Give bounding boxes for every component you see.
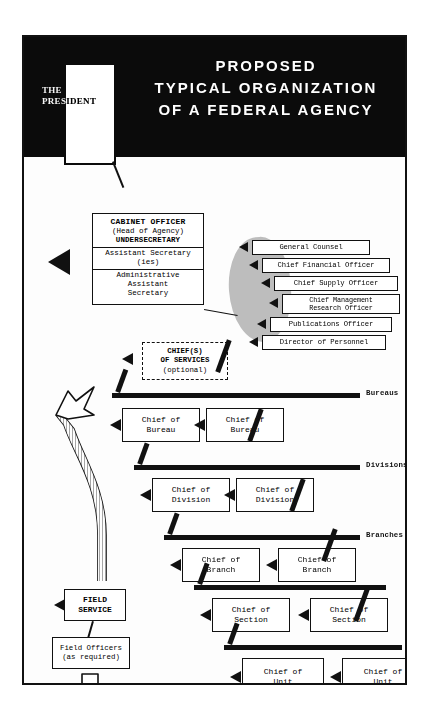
field-service-feedback-arrow-icon bbox=[54, 385, 134, 585]
staff-box-publications-officer: Publications Officer bbox=[270, 317, 392, 332]
staff-label-1: Chief Financial Officer bbox=[278, 261, 375, 270]
unit-box-2: Chief of Unit bbox=[342, 658, 407, 685]
optional-line-1: CHIEF(S) bbox=[167, 347, 202, 356]
staff-arrow-icon-0 bbox=[239, 242, 248, 252]
assistant-secretary-row: Assistant Secretary (ies) bbox=[93, 247, 203, 269]
field-officers-line-2: (as required) bbox=[62, 653, 120, 662]
division-1-line-1: Chief of bbox=[172, 485, 210, 495]
connector-president-cabinet bbox=[112, 161, 124, 188]
staff-arrow-icon-4 bbox=[257, 319, 266, 329]
branch-level-diagonal bbox=[167, 513, 179, 535]
optional-line-3: (optional) bbox=[163, 366, 207, 375]
unit-box-1: Chief of Unit bbox=[242, 658, 324, 685]
title-line-2: TYPICAL ORGANIZATION bbox=[141, 77, 391, 99]
org-chart-canvas: PROPOSED TYPICAL ORGANIZATION OF A FEDER… bbox=[22, 35, 407, 685]
division-2-line-1: Chief of bbox=[256, 485, 294, 495]
staff-label-3b: Research Officer bbox=[309, 304, 373, 312]
cabinet-arrow-icon bbox=[48, 249, 70, 275]
president-label-line-1: THE bbox=[42, 85, 62, 95]
unit-1-line-1: Chief of bbox=[264, 667, 302, 677]
division-arrow-icon-1 bbox=[140, 489, 151, 501]
branch-box-1: Chief of Branch bbox=[182, 548, 260, 582]
level-label-branches: Branches bbox=[366, 531, 403, 539]
field-officers-line-1: Field Officers bbox=[60, 644, 122, 653]
field-service-line-1: FIELD bbox=[83, 595, 107, 605]
level-label-divisions: Divisions bbox=[366, 461, 407, 469]
staff-label-0: General Counsel bbox=[279, 243, 342, 252]
bureau-1-line-2: Bureau bbox=[147, 425, 176, 435]
cabinet-undersecretary: UNDERSECRETARY bbox=[93, 236, 203, 245]
title-line-3: OF A FEDERAL AGENCY bbox=[141, 99, 391, 121]
field-service-box: FIELD SERVICE bbox=[64, 589, 126, 621]
staff-box-director-of-personnel: Director of Personnel bbox=[262, 335, 386, 350]
branch-2-line-1: Chief of bbox=[298, 555, 336, 565]
president-box bbox=[66, 65, 114, 163]
section-box-1: Chief of Section bbox=[212, 598, 290, 632]
division-1-line-2: Division bbox=[172, 495, 210, 505]
staff-box-general-counsel: General Counsel bbox=[252, 240, 370, 255]
unit-2-line-2: Unit bbox=[373, 677, 392, 685]
field-service-line-2: SERVICE bbox=[78, 605, 112, 615]
bureau-1-line-1: Chief of bbox=[142, 415, 180, 425]
division-arrow-icon-2 bbox=[224, 489, 235, 501]
cabinet-officer-box: CABINET OFFICER (Head of Agency) UNDERSE… bbox=[92, 213, 204, 305]
staff-box-chief-supply-officer: Chief Supply Officer bbox=[274, 276, 398, 291]
president-label: THE PRESIDENT bbox=[42, 85, 118, 108]
admin-line-3: Secretary bbox=[93, 289, 203, 298]
branch-box-2: Chief of Branch bbox=[278, 548, 356, 582]
staff-box-chief-financial-officer: Chief Financial Officer bbox=[262, 258, 390, 273]
level-label-bureaus: Bureaus bbox=[366, 389, 398, 397]
admin-line-1: Administrative bbox=[93, 271, 203, 280]
division-2-line-2: Division bbox=[256, 495, 294, 505]
unit-arrow-icon-1 bbox=[230, 671, 241, 683]
optional-arrow-icon bbox=[122, 353, 133, 365]
section-box-2: Chief of Section bbox=[310, 598, 388, 632]
administrative-assistant-row: Administrative Assistant Secretary bbox=[93, 269, 203, 300]
section-arrow-icon-2 bbox=[298, 609, 309, 621]
bureau-box-2: Chief of Bureau bbox=[206, 408, 284, 442]
staff-label-3a: Chief Management bbox=[309, 296, 373, 304]
branch-1-line-2: Branch bbox=[207, 565, 236, 575]
cabinet-title: CABINET OFFICER bbox=[93, 217, 203, 227]
unit-1-line-2: Unit bbox=[273, 677, 292, 685]
admin-line-2: Assistant bbox=[93, 280, 203, 289]
section-level-rule bbox=[194, 585, 386, 590]
staff-arrow-icon-1 bbox=[249, 260, 258, 270]
staff-box-chief-management-research-officer: Chief Management Research Officer bbox=[282, 294, 400, 314]
president-label-line-2: PRESIDENT bbox=[42, 96, 118, 107]
unit-level-rule bbox=[224, 645, 402, 650]
staff-label-4: Publications Officer bbox=[289, 320, 373, 329]
branch-arrow-icon-2 bbox=[266, 559, 277, 571]
assistant-secretary-line-1: Assistant Secretary bbox=[93, 249, 203, 258]
section-1-line-1: Chief of bbox=[232, 605, 270, 615]
field-officers-box: Field Officers (as required) bbox=[52, 637, 130, 669]
staff-arrow-icon-3 bbox=[269, 298, 278, 308]
staff-arrow-icon-5 bbox=[249, 337, 258, 347]
chart-title: PROPOSED TYPICAL ORGANIZATION OF A FEDER… bbox=[141, 55, 391, 120]
staff-label-2: Chief Supply Officer bbox=[294, 279, 378, 288]
assistant-secretary-line-2: (ies) bbox=[93, 258, 203, 267]
bureau-arrow-icon-2 bbox=[194, 419, 205, 431]
division-level-diagonal bbox=[137, 443, 149, 465]
bureau-level-rule bbox=[112, 393, 360, 398]
staff-arrow-icon-2 bbox=[261, 278, 270, 288]
unit-2-line-1: Chief of bbox=[364, 667, 402, 677]
division-box-1: Chief of Division bbox=[152, 478, 230, 512]
branch-arrow-icon-1 bbox=[170, 559, 181, 571]
title-line-1: PROPOSED bbox=[141, 55, 391, 77]
staff-label-5: Director of Personnel bbox=[280, 338, 368, 347]
cabinet-subtitle: (Head of Agency) bbox=[93, 227, 203, 236]
unit-arrow-icon-2 bbox=[330, 671, 341, 683]
optional-line-2: OF SERVICES bbox=[161, 356, 210, 365]
cabinet-title-row: CABINET OFFICER (Head of Agency) UNDERSE… bbox=[93, 216, 203, 247]
section-arrow-icon-1 bbox=[200, 609, 211, 621]
branch-2-line-2: Branch bbox=[303, 565, 332, 575]
chiefs-of-services-box: CHIEF(S) OF SERVICES (optional) bbox=[142, 342, 228, 380]
section-2-line-2: Section bbox=[332, 615, 366, 625]
field-service-arrow-icon bbox=[54, 599, 65, 611]
division-level-rule bbox=[134, 465, 360, 470]
coordination-down-arrow-icon bbox=[72, 673, 108, 685]
